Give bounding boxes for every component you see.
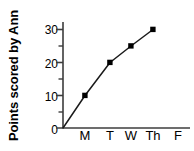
data-point-wednesday xyxy=(128,43,133,48)
x-tick-label-m: M xyxy=(74,129,96,142)
line-chart: Points scored by Ann 30 20 10 0 xyxy=(0,0,194,151)
x-tick-label-th: Th xyxy=(142,129,164,142)
data-point-tuesday xyxy=(107,60,112,65)
y-axis xyxy=(56,22,63,128)
x-tick-label-w: W xyxy=(120,129,142,142)
plot-area xyxy=(0,0,194,151)
x-tick-label-f: F xyxy=(167,129,189,142)
data-point-monday xyxy=(82,93,87,98)
data-point-thursday xyxy=(150,27,155,32)
data-markers xyxy=(82,27,155,98)
data-line xyxy=(63,30,153,129)
x-tick-label-t: T xyxy=(99,129,121,142)
